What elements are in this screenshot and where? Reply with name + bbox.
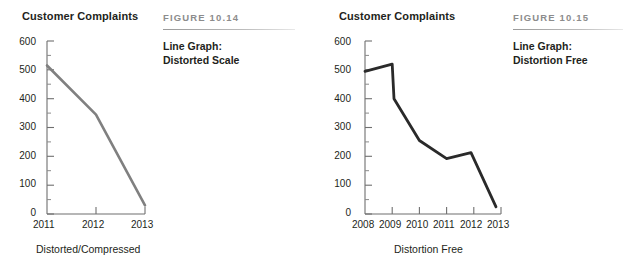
x-ticks-left xyxy=(96,207,145,214)
x-tick-label-2008-right: 2008 xyxy=(352,219,374,230)
data-line-left xyxy=(47,66,145,206)
x-axis-label-right: Distortion Free xyxy=(394,243,463,255)
y-major-ticks-right xyxy=(365,41,372,214)
line-chart-distortion-free xyxy=(311,0,511,230)
x-tick-label-2011-left: 2011 xyxy=(33,219,55,230)
caption-line-1-10-14: Line Graph: xyxy=(163,39,295,53)
x-tick-label-2011-right: 2011 xyxy=(433,219,455,230)
caption-divider-10-14 xyxy=(163,29,295,30)
figure-number-10-15: FIGURE 10.15 xyxy=(513,12,623,23)
figure-pair: Customer Complaints 600 500 400 300 200 … xyxy=(0,0,623,277)
caption-line-2-10-15: Distortion Free xyxy=(513,53,623,67)
x-tick-label-2010-right: 2010 xyxy=(406,219,428,230)
x-tick-label-2009-right: 2009 xyxy=(379,219,401,230)
data-line-right xyxy=(365,64,496,207)
x-tick-label-2012-right: 2012 xyxy=(460,219,482,230)
caption-text-10-14: Line Graph: Distorted Scale xyxy=(163,39,295,67)
x-ticks-right xyxy=(392,207,501,214)
x-axis-label-left: Distorted/Compressed xyxy=(36,243,140,255)
line-chart-distorted xyxy=(0,0,160,230)
figure-number-10-14: FIGURE 10.14 xyxy=(163,12,295,23)
caption-line-1-10-15: Line Graph: xyxy=(513,39,623,53)
x-tick-label-2012-left: 2012 xyxy=(82,219,104,230)
caption-block-10-15: FIGURE 10.15 Line Graph: Distortion Free xyxy=(513,12,623,67)
caption-divider-10-15 xyxy=(513,29,623,30)
x-tick-label-2013-right: 2013 xyxy=(487,219,509,230)
x-tick-label-2013-left: 2013 xyxy=(131,219,153,230)
figure-panel-10-14: Customer Complaints 600 500 400 300 200 … xyxy=(0,0,311,277)
caption-line-2-10-14: Distorted Scale xyxy=(163,53,295,67)
figure-panel-10-15: Customer Complaints 600 500 400 300 200 … xyxy=(311,0,623,277)
caption-block-10-14: FIGURE 10.14 Line Graph: Distorted Scale xyxy=(163,12,295,67)
caption-text-10-15: Line Graph: Distortion Free xyxy=(513,39,623,67)
